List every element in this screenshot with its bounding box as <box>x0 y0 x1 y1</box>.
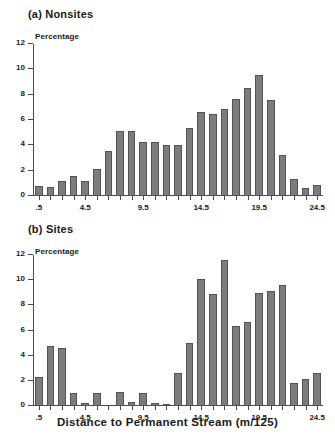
histogram-bar <box>197 112 205 196</box>
histogram-bar <box>209 114 217 196</box>
histogram-bar <box>290 179 298 196</box>
panel-b-y-tick-label: 4 <box>21 350 25 359</box>
histogram-bar <box>139 393 147 406</box>
panel-a-y-tick: 10 <box>28 68 33 69</box>
panel-b-x-tick <box>224 406 225 410</box>
histogram-bar <box>302 379 310 406</box>
panel-a-x-tick <box>120 196 121 200</box>
panel-b-x-tick <box>108 406 109 410</box>
panel-b-y-tick: 12 <box>28 254 33 255</box>
panel-b-y-tick-label: 12 <box>16 249 25 258</box>
panel-b-x-tick <box>306 406 307 410</box>
panel-a-y-tick: 8 <box>28 94 33 95</box>
panel-a-x-tick <box>143 196 144 200</box>
panel-a-x-tick <box>132 196 133 200</box>
panel-b-y-tick: 10 <box>28 279 33 280</box>
panel-a-y-tick-label: 2 <box>21 165 25 174</box>
panel-b-x-tick <box>282 406 283 410</box>
panel-b-x-tick <box>166 406 167 410</box>
panel-a-x-tick <box>74 196 75 200</box>
panel-b-x-tick <box>317 406 318 410</box>
panel-b-x-tick <box>213 406 214 410</box>
panel-a-y-tick-label: 8 <box>21 89 25 98</box>
histogram-bar <box>221 260 229 406</box>
panel-sites: (b) Sites Percentage 024681012.54.59.514… <box>0 215 335 443</box>
panel-b-y-tick: 0 <box>28 405 33 406</box>
histogram-bar <box>58 348 66 406</box>
histogram-bar <box>128 131 136 196</box>
panel-b-x-tick <box>97 406 98 410</box>
histogram-bar <box>174 373 182 406</box>
histogram-bar <box>139 142 147 196</box>
panel-a-x-tick <box>282 196 283 200</box>
panel-a-y-tick: 2 <box>28 170 33 171</box>
panel-b-y-tick: 4 <box>28 355 33 356</box>
panel-nonsites: (a) Nonsites Percentage 024681012.54.59.… <box>0 0 335 215</box>
panel-b-x-tick <box>74 406 75 410</box>
panel-a-x-tick-label: 9.5 <box>138 203 149 212</box>
panel-b-title: (b) Sites <box>28 223 73 235</box>
histogram-bar <box>81 181 89 196</box>
histogram-bar <box>47 346 55 406</box>
panel-a-x-tick <box>201 196 202 200</box>
histogram-bar <box>197 279 205 406</box>
panel-a-x-tick <box>178 196 179 200</box>
histogram-bar <box>58 181 66 196</box>
panel-a-y-tick-label: 6 <box>21 114 25 123</box>
panel-a-x-tick <box>85 196 86 200</box>
histogram-bar <box>279 285 287 406</box>
histogram-bar <box>313 185 321 196</box>
panel-b-x-tick <box>132 406 133 410</box>
histogram-bar <box>244 322 252 406</box>
panel-a-x-tick <box>306 196 307 200</box>
panel-a-x-tick <box>39 196 40 200</box>
histogram-bar <box>267 291 275 406</box>
panel-b-x-tick <box>39 406 40 410</box>
histogram-bar <box>105 151 113 196</box>
histogram-figure: (a) Nonsites Percentage 024681012.54.59.… <box>0 0 335 443</box>
histogram-bar <box>313 373 321 406</box>
panel-a-x-tick-label: 14.5 <box>193 203 209 212</box>
histogram-bar <box>116 392 124 406</box>
histogram-bar <box>163 145 171 196</box>
panel-a-x-tick <box>317 196 318 200</box>
panel-a-x-tick <box>236 196 237 200</box>
panel-a-x-tick <box>190 196 191 200</box>
histogram-bar <box>47 187 55 197</box>
histogram-bar <box>70 393 78 406</box>
panel-a-y-tick: 0 <box>28 195 33 196</box>
panel-b-y-tick: 8 <box>28 304 33 305</box>
histogram-bar <box>35 186 43 196</box>
histogram-bar <box>267 100 275 196</box>
histogram-bar <box>255 293 263 406</box>
panel-b-x-tick <box>155 406 156 410</box>
panel-a-x-tick <box>248 196 249 200</box>
panel-a-x-tick-label: .5 <box>35 203 42 212</box>
panel-a-x-tick <box>108 196 109 200</box>
panel-a-y-tick-label: 0 <box>21 190 25 199</box>
panel-a-y-tick-label: 4 <box>21 139 25 148</box>
histogram-bar <box>255 75 263 196</box>
panel-b-y-tick: 2 <box>28 380 33 381</box>
histogram-bar <box>186 128 194 196</box>
panel-b-x-tick <box>62 406 63 410</box>
panel-b-y-tick-label: 0 <box>21 400 25 409</box>
panel-a-y-tick: 6 <box>28 119 33 120</box>
panel-b-x-tick <box>259 406 260 410</box>
panel-a-x-tick <box>155 196 156 200</box>
panel-b-x-tick <box>248 406 249 410</box>
panel-b-y-tick-label: 2 <box>21 375 25 384</box>
panel-b-x-tick <box>294 406 295 410</box>
panel-a-x-tick <box>166 196 167 200</box>
panel-a-x-tick <box>97 196 98 200</box>
histogram-bar <box>244 88 252 196</box>
histogram-bar <box>302 188 310 196</box>
panel-a-x-tick <box>259 196 260 200</box>
histogram-bar <box>93 169 101 196</box>
panel-b-plot-area: 024681012.54.59.514.519.524.5 <box>33 255 323 406</box>
panel-a-x-tick-label: 4.5 <box>80 203 91 212</box>
panel-a-y-axis-label: Percentage <box>35 32 79 41</box>
panel-b-x-tick <box>201 406 202 410</box>
histogram-bar <box>116 131 124 196</box>
panel-b-x-tick <box>50 406 51 410</box>
